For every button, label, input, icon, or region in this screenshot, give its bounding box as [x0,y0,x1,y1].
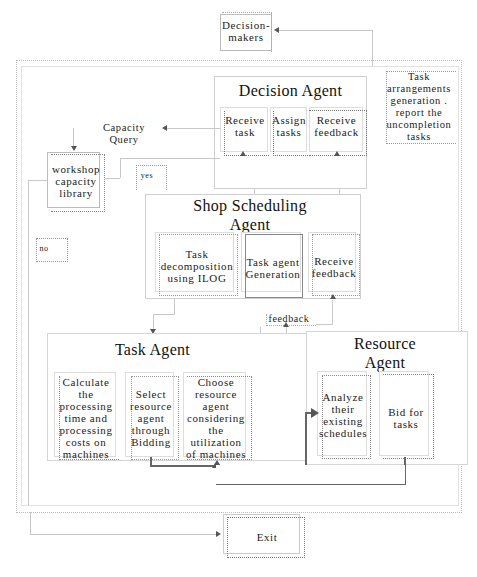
task-step-label: Choose resource agent considering the ut… [183,376,249,460]
yes-label: yes [136,170,158,182]
resource-agent-title: Resource Agent [330,334,440,372]
connector [332,300,333,324]
connector [316,324,333,325]
connector [28,180,47,181]
shop-step-label: Receive feedback [309,255,359,279]
feedback-label: feedback [266,313,312,324]
task-step-label: Calculate the processing time and proces… [54,376,118,460]
connector [30,534,216,535]
arrow-up [330,294,336,299]
shop-scheduling-title: Shop Scheduling Agent [165,196,335,234]
resource-step-label: Bid for tasks [381,406,431,430]
connector [73,128,74,148]
decision-agent-title: Decision Agent [214,81,367,100]
decision-step-label: Receive task [221,114,269,138]
decision-step-label: Assign tasks [271,114,307,138]
connector [105,178,120,179]
connector [174,299,175,314]
decision-step-label: Receive feedback [309,114,364,138]
arrow-up [240,151,246,156]
resource-step-label: Analyze their existing schedules [318,391,368,439]
no-label: no [37,243,51,255]
connector [279,30,372,31]
connector [120,158,220,159]
arrow-to-exit [216,531,221,537]
task-agent-title: Task Agent [100,340,205,359]
lower-frame [216,465,405,484]
connector [28,180,29,505]
arrow-to-analyze [311,408,319,418]
shop-step-label: Task agent Generation [244,256,302,280]
capacity-query-label: Capacity Query [88,122,160,146]
decision-makers-label: Decision- makers [222,19,270,43]
shop-step-label: Task decomposition using ILOG [158,248,236,284]
connector [30,512,31,534]
exit-label: Exit [237,531,297,543]
connector [372,30,373,66]
connector [153,314,175,315]
connector [167,128,220,129]
arrow-down [71,146,77,151]
bid-line [305,412,307,467]
task-step-label: Select resource agent through Bidding [126,388,176,448]
task-arrangements-label: Task arrangements generation . report th… [384,71,454,143]
connector [120,158,121,178]
workshop-library-label: workshop capacity library [46,163,106,199]
arrow-up [334,151,340,156]
